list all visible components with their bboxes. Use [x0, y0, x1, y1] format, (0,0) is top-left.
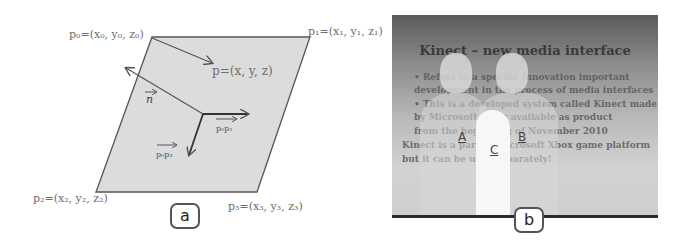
- slide-title: Kinect – new media interface: [392, 43, 658, 58]
- panel-b-badge: b: [514, 207, 544, 233]
- person-a-label: A: [458, 130, 466, 144]
- p0p1-vector-label: p₀p₁: [216, 124, 233, 133]
- point-p0-label: p₀=(x₀, y₀, z₀): [69, 28, 144, 41]
- person-a-head: [440, 53, 472, 93]
- point-p3-label: p₃=(x₃, y₃, z₃): [228, 200, 303, 213]
- person-b-head: [496, 53, 528, 93]
- panel-a-badge: a: [170, 203, 200, 229]
- person-c-label: C: [490, 143, 498, 157]
- point-p-label: p=(x, y, z): [212, 64, 273, 78]
- point-p2-label: p₂=(x₂, y₂, z₂): [33, 192, 108, 205]
- p0p2-vector-label: p₀p₂: [156, 150, 173, 159]
- panel-a-plane-diagram: p₀=(x₀, y₀, z₀) p₁=(x₁, y₁, z₁) p₂=(x₂, …: [0, 0, 390, 250]
- point-p1-label: p₁=(x₁, y₁, z₁): [308, 25, 383, 38]
- normal-vector-label: n: [146, 93, 153, 106]
- person-b-label: B: [518, 130, 526, 144]
- panel-b-kinect-image: Kinect – new media interface • Refers to…: [392, 15, 658, 218]
- person-c-silhouette: [476, 110, 510, 218]
